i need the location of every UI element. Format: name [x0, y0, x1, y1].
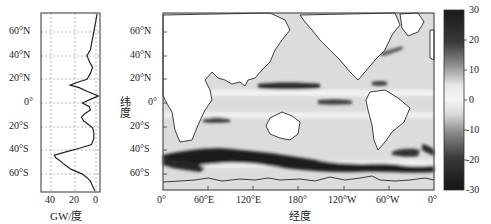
colorbar-tick-20: 20: [469, 34, 479, 45]
colorbar-tick-neg30: -30: [466, 184, 479, 195]
colorbar-tick-neg10: -10: [466, 124, 479, 135]
map-y-tick-60s: 60°S: [130, 167, 150, 178]
map-y-axis-label: 纬度: [117, 96, 133, 118]
map-y-tick-0: 0°: [148, 96, 157, 107]
map-y-tick-20n: 20°N: [130, 72, 151, 83]
map-x-tick-60w: 60°W: [376, 194, 399, 205]
colorbar-tick-30: 30: [469, 4, 479, 15]
map-x-tick-180: 180°: [288, 194, 307, 205]
map-x-axis-label: 经度: [289, 207, 311, 223]
map-y-tick-40n: 40°N: [130, 49, 151, 60]
colorbar-tick-10: 10: [469, 64, 479, 75]
heatmap-map: [0, 0, 491, 224]
colorbar-tick-neg20: -20: [466, 154, 479, 165]
map-x-tick-0: 0°: [157, 194, 166, 205]
map-x-tick-120w: 120°W: [328, 194, 356, 205]
map-x-tick-60e: 60°E: [194, 194, 214, 205]
map-x-tick-120e: 120°E: [236, 194, 261, 205]
map-y-tick-40s: 40°S: [130, 143, 150, 154]
map-y-tick-60n: 60°N: [130, 25, 151, 36]
colorbar-tick-0: 0: [469, 94, 474, 105]
map-x-tick-0-end: 0°: [428, 194, 437, 205]
map-y-tick-20s: 20°S: [130, 120, 150, 131]
